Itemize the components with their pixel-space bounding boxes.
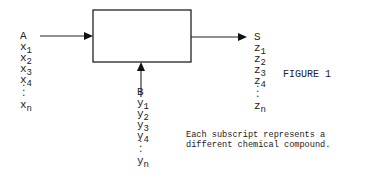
caption-line-2: different chemical compound. <box>186 140 330 150</box>
yn-variable: yn <box>137 156 149 167</box>
input-b-column: B y1 y2 y3 y4 ... yn <box>137 87 149 167</box>
diagram-lines <box>0 0 369 180</box>
xn-variable: xn <box>20 100 32 111</box>
caption-line-1: Each subscript represents a <box>186 130 330 140</box>
process-box <box>93 10 191 62</box>
input-a-column: A x1 x2 x3 x4 ... xn <box>20 31 32 111</box>
input-a-arrow <box>40 32 93 40</box>
output-s-column: S z1 z2 z3 z4 ... zn <box>254 32 266 112</box>
zn-variable: zn <box>254 101 266 112</box>
figure-label: FIGURE 1 <box>283 69 331 80</box>
caption: Each subscript represents a different ch… <box>186 130 330 150</box>
output-s-arrow <box>191 33 247 41</box>
